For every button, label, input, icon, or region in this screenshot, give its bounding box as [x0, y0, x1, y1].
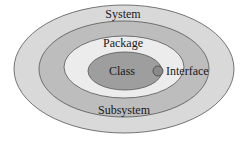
system-label: System — [105, 7, 141, 21]
class-label: Class — [109, 64, 135, 78]
interface-circle — [153, 66, 163, 76]
nested-architecture-diagram: System Package Class Interface Subsystem — [0, 0, 246, 141]
subsystem-label: Subsystem — [98, 103, 151, 117]
interface-label: Interface — [166, 64, 209, 78]
package-label: Package — [103, 36, 143, 50]
